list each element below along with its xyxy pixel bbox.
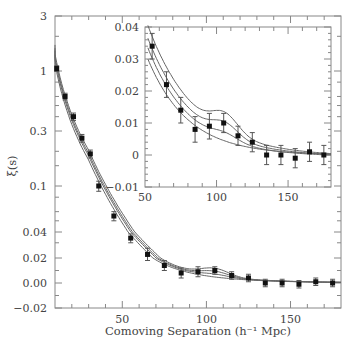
y-tick-label: 0.00 [23,277,48,290]
y-tick-label: 0.02 [23,252,48,265]
inset-frame [145,27,331,187]
data-point [63,94,68,99]
inset-data-point [293,156,298,161]
data-point [229,273,234,278]
correlation-function-chart: 50100150310.30.10.040.020.00−0.02 501001… [0,0,354,348]
inset-y-tick-label: 0.04 [115,21,140,34]
inset-data-point [278,153,283,158]
inset-plot: 501001500.040.030.020.010−0.01 [105,21,331,204]
data-point [179,271,184,276]
inset-data-point [236,133,241,138]
data-point [96,184,101,189]
inset-data-point [150,44,155,49]
inset-data-point [164,82,169,87]
inset-data-point [307,149,312,154]
data-point [128,236,133,241]
inset-data-point [250,140,255,145]
y-tick-label: 3 [40,10,47,23]
inset-data-point [207,124,212,129]
data-point [196,269,201,274]
y-tick-label: 1 [40,65,47,78]
data-point [79,136,84,141]
y-axis-label: ξ(s) [5,155,19,176]
inset-y-tick-label: 0.01 [115,117,140,130]
y-tick-label: 0.3 [30,125,48,138]
inset-y-tick-label: 0.03 [115,53,140,66]
data-point [330,281,335,286]
x-axis-label: Comoving Separation (h⁻¹ Mpc) [105,324,291,338]
y-tick-label: 0.1 [30,180,48,193]
inset-data-point [264,153,269,158]
y-tick-label: 0.04 [23,226,48,239]
inset-x-tick-label: 100 [206,191,227,204]
inset-y-tick-label: 0 [132,149,139,162]
data-point [111,214,116,219]
y-tick-label: −0.02 [13,302,47,315]
inset-data-point [193,127,198,132]
data-point [88,151,93,156]
inset-data-point [178,108,183,113]
data-point [280,281,285,286]
data-point [263,281,268,286]
data-point [162,263,167,268]
inset-x-tick-label: 150 [278,191,299,204]
data-point [54,66,59,71]
inset-data-point [221,121,226,126]
data-point [313,279,318,284]
data-point [246,276,251,281]
inset-data-point [321,153,326,158]
inset-y-tick-label: −0.01 [105,181,139,194]
data-point [296,282,301,287]
data-point [212,268,217,273]
inset-y-tick-label: 0.02 [115,85,140,98]
inset-x-tick-label: 50 [138,191,152,204]
data-point [71,114,76,119]
data-point [145,252,150,257]
